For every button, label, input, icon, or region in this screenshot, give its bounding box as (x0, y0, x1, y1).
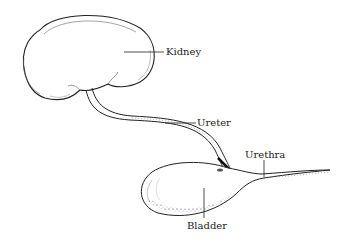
bladder-shape (141, 162, 330, 218)
urinary-tract-illustration (0, 0, 344, 248)
kidney-label: Kidney (166, 47, 201, 57)
ureter-shape (86, 88, 230, 170)
urethra-label: Urethra (245, 150, 285, 160)
ureter-label: Ureter (197, 118, 231, 128)
bladder-label: Bladder (187, 221, 227, 231)
kidney-shape (23, 15, 154, 99)
